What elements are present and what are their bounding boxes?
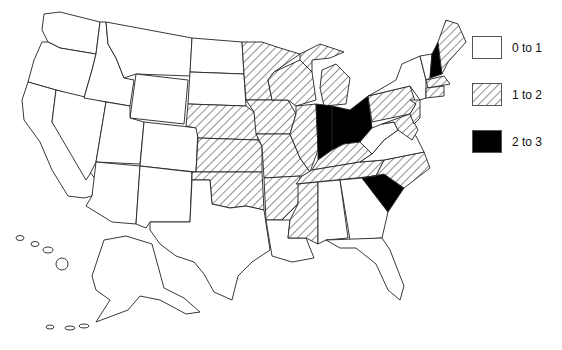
swatch-hatched xyxy=(472,83,502,106)
legend-item-high: 2 to 3 xyxy=(472,118,542,165)
legend-item-mid: 1 to 2 xyxy=(472,71,542,118)
state-connecticut-ri xyxy=(426,86,444,98)
swatch-black xyxy=(472,130,502,153)
state-south-dakota xyxy=(188,72,246,106)
state-wyoming xyxy=(130,74,188,124)
state-new-mexico xyxy=(136,166,192,228)
swatch-white xyxy=(472,36,502,59)
legend-item-low: 0 to 1 xyxy=(472,24,542,71)
state-kansas xyxy=(196,138,262,172)
state-maine xyxy=(438,20,466,74)
aleutian-islands xyxy=(46,324,89,330)
state-colorado xyxy=(140,122,198,172)
state-michigan-lower xyxy=(320,64,350,106)
legend: 0 to 1 1 to 2 2 to 3 xyxy=(472,24,542,165)
state-florida xyxy=(326,238,404,300)
state-arizona xyxy=(86,162,140,224)
legend-label: 1 to 2 xyxy=(512,88,542,102)
legend-label: 2 to 3 xyxy=(512,135,542,149)
state-north-dakota xyxy=(190,38,244,74)
state-hawaii xyxy=(16,236,68,271)
legend-label: 0 to 1 xyxy=(512,41,542,55)
